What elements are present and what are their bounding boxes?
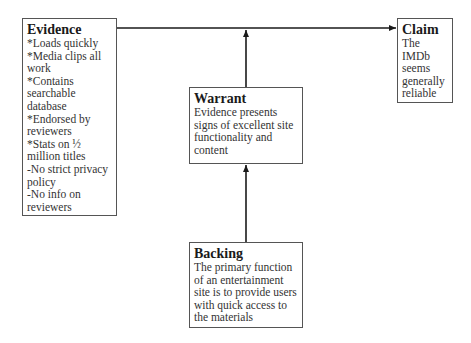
evidence-line: reviewers (27, 201, 112, 214)
backing-line: The primary function (194, 261, 298, 274)
warrant-box: Warrant Evidence presents signs of excel… (189, 87, 303, 164)
evidence-line: *Contains (27, 75, 112, 88)
evidence-title: Evidence (27, 22, 112, 37)
evidence-line: work (27, 62, 112, 75)
evidence-line: reviewers (27, 125, 112, 138)
evidence-line: *Loads quickly (27, 37, 112, 50)
backing-line: with quick access to (194, 299, 298, 312)
claim-line: The (402, 37, 448, 50)
warrant-line: functionality and (194, 131, 298, 144)
evidence-line: *Stats on ½ (27, 138, 112, 151)
claim-line: IMDb (402, 50, 448, 63)
evidence-line: -No strict privacy (27, 163, 112, 176)
evidence-line: *Media clips all (27, 50, 112, 63)
evidence-line: million titles (27, 150, 112, 163)
warrant-line: content (194, 144, 298, 157)
evidence-line: policy (27, 176, 112, 189)
evidence-box: Evidence *Loads quickly *Media clips all… (22, 18, 117, 216)
warrant-title: Warrant (194, 91, 298, 106)
claim-line: generally (402, 75, 448, 88)
evidence-line: *Endorsed by (27, 113, 112, 126)
evidence-line: searchable (27, 87, 112, 100)
evidence-line: -No info on (27, 188, 112, 201)
backing-title: Backing (194, 246, 298, 261)
claim-box: Claim The IMDb seems generally reliable (397, 18, 453, 103)
claim-line: reliable (402, 87, 448, 100)
evidence-line: database (27, 100, 112, 113)
warrant-line: signs of excellent site (194, 119, 298, 132)
backing-line: site is to provide users (194, 286, 298, 299)
claim-line: seems (402, 62, 448, 75)
backing-line: of an entertainment (194, 274, 298, 287)
warrant-line: Evidence presents (194, 106, 298, 119)
claim-title: Claim (402, 22, 448, 37)
backing-box: Backing The primary function of an enter… (189, 242, 303, 328)
backing-line: the materials (194, 311, 298, 324)
